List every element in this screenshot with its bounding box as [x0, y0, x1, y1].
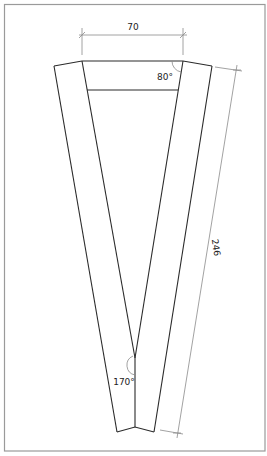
- length-dimension: [160, 65, 242, 438]
- left-inner-edge: [82, 61, 135, 358]
- right-outer-edge: [154, 66, 212, 432]
- length-dimension-label: 246: [210, 238, 223, 257]
- top-angle-label: 80°: [157, 72, 173, 82]
- technical-drawing: 70 246 80° 170°: [0, 0, 267, 456]
- top-angle-arc: [172, 61, 181, 72]
- top-edge: [54, 61, 212, 66]
- bottom-edge: [117, 427, 154, 432]
- width-dimension: [79, 28, 187, 55]
- left-outer-edge: [54, 66, 117, 432]
- width-dimension-label: 70: [127, 22, 139, 32]
- apex-angle-arc: [127, 356, 135, 375]
- apex-angle-label: 170°: [113, 377, 135, 387]
- right-inner-edge: [135, 61, 183, 358]
